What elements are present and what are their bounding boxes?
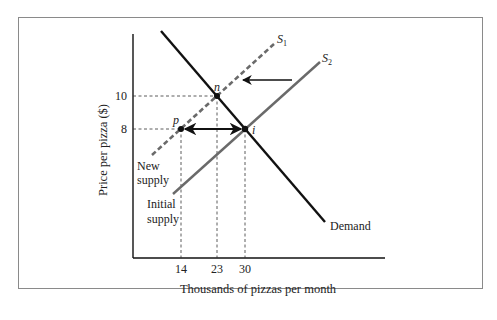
label-new-supply-1: New	[137, 159, 160, 173]
x-axis-title: Thousands of pizzas per month	[180, 282, 337, 296]
x-tick-23: 23	[211, 262, 223, 276]
label-s1: S1	[277, 32, 287, 48]
x-tick-30: 30	[239, 262, 251, 276]
y-tick-8: 8	[121, 122, 127, 136]
label-i: i	[252, 123, 255, 137]
label-demand: Demand	[330, 219, 371, 233]
label-new-supply-2: supply	[137, 173, 169, 187]
label-initial-supply-1: Initial	[147, 197, 176, 211]
label-p: p	[172, 113, 179, 127]
label-n: n	[214, 80, 220, 94]
label-s2: S2	[322, 51, 332, 67]
y-axis-title: Price per pizza ($)	[96, 104, 110, 196]
demand-line	[161, 31, 325, 222]
point-i	[242, 126, 248, 132]
y-tick-10: 10	[115, 89, 127, 103]
supply-demand-chart: n p i S1 S2 New supply Initial supply De…	[0, 0, 497, 320]
s1-new-supply-line	[152, 44, 274, 155]
x-tick-14: 14	[175, 262, 187, 276]
label-initial-supply-2: supply	[147, 212, 179, 226]
